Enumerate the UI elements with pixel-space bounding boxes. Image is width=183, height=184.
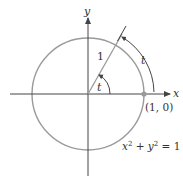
arc-length-arc xyxy=(122,37,154,92)
point-label: (1, 0) xyxy=(145,101,173,113)
radius-label: 1 xyxy=(97,50,104,63)
y-axis-label: y xyxy=(83,5,91,18)
circle-equation: x2 + y2 = 1 xyxy=(122,140,180,152)
angle-label: t xyxy=(97,81,102,94)
point-1-0 xyxy=(141,91,146,96)
unit-circle-diagram: y x 1 t t (1, 0) x2 + y2 = 1 xyxy=(0,0,183,184)
arc-length-label: t xyxy=(141,54,146,67)
eq-rhs: = 1 xyxy=(158,140,180,152)
radius-line xyxy=(88,34,122,94)
x-axis-label: x xyxy=(173,87,180,100)
eq-y: + y xyxy=(132,140,154,152)
